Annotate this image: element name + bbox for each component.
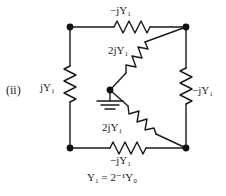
figure-index-label: (ii) <box>6 84 21 96</box>
node-bottom-left <box>67 145 74 152</box>
wire-diagonal-lower-inner <box>110 90 128 106</box>
node-bottom-right <box>183 145 190 152</box>
node-top-right <box>183 24 190 31</box>
formula-caption: Y₁ = 2⁻¹Y₀ <box>87 172 137 183</box>
wire-diagonal-upper-outer <box>145 27 186 42</box>
node-centre-ground <box>107 87 114 94</box>
resistor-bottom-branch <box>110 142 146 154</box>
circuit-figure: (ii) −jY₁ jY₁ −jY₁ −jY₁ 2jY₁ 2jY₁ Y₁ = 2… <box>0 0 226 196</box>
resistor-left-branch <box>64 66 76 102</box>
label-right-branch: −jY₁ <box>192 85 213 96</box>
resistor-diagonal-lower <box>128 106 156 134</box>
resistor-right-branch <box>180 68 192 104</box>
resistor-diagonal-upper <box>126 42 148 73</box>
label-top-branch: −jY₁ <box>110 5 131 16</box>
label-bottom-branch: −jY₁ <box>110 155 131 166</box>
node-dots <box>67 24 190 152</box>
wire-diagonal-upper-inner <box>110 73 126 90</box>
wire-diagonal-lower-outer <box>156 134 186 148</box>
label-diagonal-lower-branch: 2jY₁ <box>102 122 122 133</box>
circuit-schematic-svg <box>0 0 226 196</box>
label-left-branch: jY₁ <box>40 82 55 93</box>
node-top-left <box>67 24 74 31</box>
label-diagonal-upper-branch: 2jY₁ <box>108 45 128 56</box>
resistor-top-branch <box>114 21 150 33</box>
